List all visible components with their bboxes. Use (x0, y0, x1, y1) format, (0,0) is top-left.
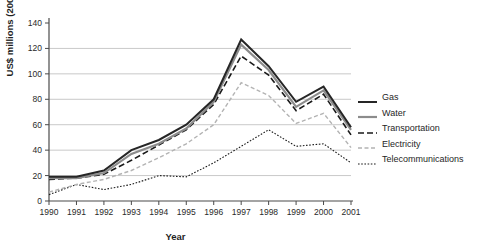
telecommunications-line-swatch-icon (358, 155, 377, 165)
svg-text:1996: 1996 (204, 207, 223, 217)
svg-text:1998: 1998 (259, 207, 278, 217)
svg-text:0: 0 (37, 196, 42, 206)
legend-label-transportation: Transportation (382, 124, 440, 133)
svg-text:100: 100 (28, 69, 42, 79)
svg-text:1994: 1994 (149, 207, 168, 217)
transportation-line-swatch-icon (358, 124, 377, 134)
svg-text:120: 120 (28, 43, 42, 53)
water-line-swatch-icon (358, 108, 377, 118)
svg-text:80: 80 (33, 94, 43, 104)
gas-line-swatch-icon (358, 93, 377, 103)
legend: Gas Water Transportation Electricity Tel… (358, 90, 464, 168)
svg-text:2001: 2001 (342, 207, 361, 217)
svg-text:1997: 1997 (232, 207, 251, 217)
svg-text:140: 140 (28, 18, 42, 28)
legend-label-water: Water (382, 109, 406, 118)
legend-label-electricity: Electricity (382, 140, 421, 149)
legend-item-transportation: Transportation (358, 121, 464, 137)
svg-text:1992: 1992 (94, 207, 113, 217)
legend-item-water: Water (358, 106, 464, 122)
svg-text:1990: 1990 (40, 207, 59, 217)
svg-text:1999: 1999 (287, 207, 306, 217)
svg-text:40: 40 (33, 145, 43, 155)
svg-text:2000: 2000 (314, 207, 333, 217)
x-axis-title: Year (0, 231, 351, 242)
svg-text:60: 60 (33, 120, 43, 130)
legend-item-electricity: Electricity (358, 137, 464, 153)
electricity-line-swatch-icon (358, 139, 377, 149)
y-axis-title: US$ millions (2001) (4, 0, 15, 76)
legend-item-telecommunications: Telecommunications (358, 152, 464, 168)
svg-text:1993: 1993 (122, 207, 141, 217)
legend-label-telecommunications: Telecommunications (382, 155, 464, 164)
line-chart-figure: 0204060801001201401990199119921993199419… (0, 0, 495, 248)
svg-text:1991: 1991 (67, 207, 86, 217)
legend-item-gas: Gas (358, 90, 464, 106)
svg-text:1995: 1995 (177, 207, 196, 217)
legend-label-gas: Gas (382, 93, 399, 102)
svg-text:20: 20 (33, 171, 43, 181)
